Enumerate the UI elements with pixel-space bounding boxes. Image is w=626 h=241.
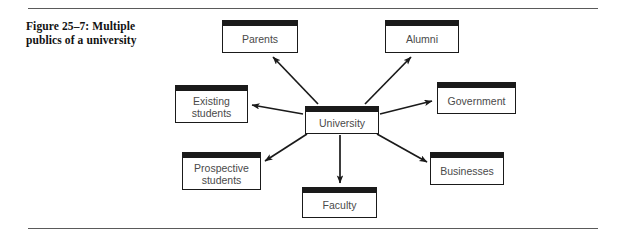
node-parents-label: Parents — [223, 26, 297, 52]
arrow-university-to-prospective-students — [265, 134, 307, 161]
node-university[interactable]: University — [305, 106, 379, 134]
node-existing-students[interactable]: Existing students — [175, 85, 248, 123]
arrow-university-to-businesses — [377, 134, 427, 162]
node-faculty[interactable]: Faculty — [302, 187, 377, 218]
figure-container: Figure 25–7: Multiple publics of a unive… — [0, 0, 626, 241]
node-government-label: Government — [438, 88, 515, 113]
arrow-university-to-existing-students — [252, 105, 303, 114]
node-alumni[interactable]: Alumni — [385, 20, 459, 53]
node-faculty-label: Faculty — [303, 193, 376, 217]
node-parents[interactable]: Parents — [222, 20, 298, 53]
node-prospective-students[interactable]: Prospective students — [182, 152, 261, 190]
arrow-university-to-alumni — [365, 57, 411, 104]
node-businesses-label: Businesses — [431, 158, 503, 184]
node-university-label: University — [306, 112, 378, 133]
node-government[interactable]: Government — [437, 82, 516, 114]
node-prospective-students-label: Prospective students — [183, 158, 260, 189]
arrow-university-to-government — [380, 101, 432, 114]
node-existing-students-label: Existing students — [176, 91, 247, 122]
arrow-university-to-parents — [273, 57, 318, 104]
node-alumni-label: Alumni — [386, 26, 458, 52]
node-businesses[interactable]: Businesses — [430, 152, 504, 185]
